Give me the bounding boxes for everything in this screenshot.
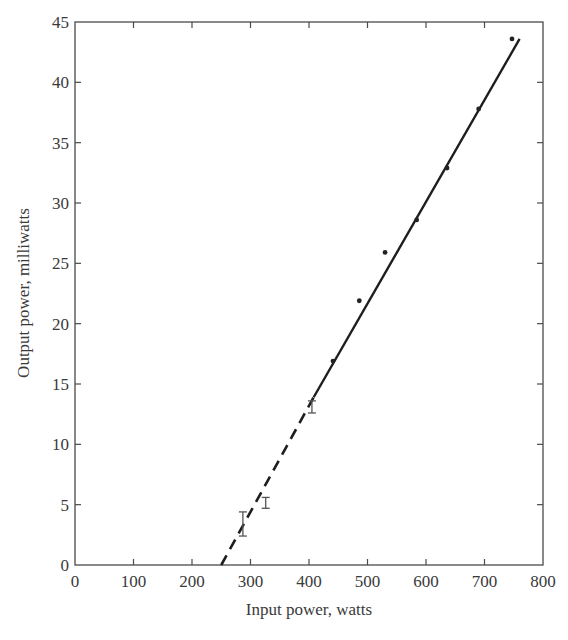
fit-line <box>221 39 519 565</box>
error-bar <box>262 497 270 508</box>
y-tick-label: 30 <box>52 194 69 213</box>
x-tick-label: 300 <box>238 572 264 591</box>
error-bars <box>239 401 316 536</box>
y-tick-label: 15 <box>52 375 69 394</box>
plot-frame <box>75 22 543 565</box>
data-point <box>383 250 388 255</box>
x-axis-title: Input power, watts <box>246 600 372 619</box>
x-tick-label: 100 <box>121 572 147 591</box>
x-tick-label: 400 <box>296 572 322 591</box>
y-tick-label: 0 <box>61 556 70 575</box>
x-tick-label: 700 <box>472 572 498 591</box>
x-tick-label: 600 <box>413 572 439 591</box>
fit-line-dashed <box>221 397 313 565</box>
x-tick-label: 500 <box>355 572 381 591</box>
y-tick-label: 20 <box>52 315 69 334</box>
data-point <box>476 106 481 111</box>
chart: 0100200300400500600700800 05101520253035… <box>0 0 568 640</box>
y-tick-labels: 051015202530354045 <box>52 13 69 575</box>
data-point <box>445 166 450 171</box>
data-point <box>414 217 419 222</box>
axis-ticks <box>75 22 543 565</box>
y-tick-label: 10 <box>52 435 69 454</box>
plot-border <box>75 22 543 565</box>
y-tick-label: 45 <box>52 13 69 32</box>
y-tick-label: 25 <box>52 254 69 273</box>
data-point <box>510 36 515 41</box>
x-tick-labels: 0100200300400500600700800 <box>71 572 556 591</box>
y-tick-label: 35 <box>52 134 69 153</box>
data-points <box>331 36 515 363</box>
x-tick-label: 800 <box>530 572 556 591</box>
x-tick-label: 0 <box>71 572 80 591</box>
y-axis-title: Output power, milliwatts <box>14 208 33 378</box>
x-tick-label: 200 <box>179 572 205 591</box>
data-point <box>331 359 336 364</box>
y-tick-label: 40 <box>52 73 69 92</box>
y-tick-label: 5 <box>61 496 70 515</box>
data-point <box>357 298 362 303</box>
